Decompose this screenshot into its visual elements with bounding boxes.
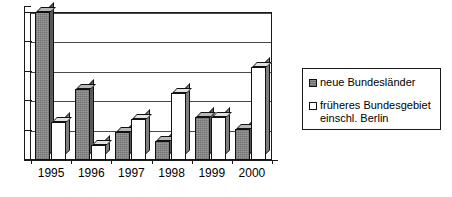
legend-label: neue Bundesländer <box>320 76 415 89</box>
legend-swatch-icon <box>309 79 317 87</box>
x-tick-mark <box>192 160 193 164</box>
y-tick-mark <box>25 100 32 101</box>
bar-2000-neue <box>235 129 250 160</box>
y-tick-mark <box>25 130 32 131</box>
x-axis <box>24 160 278 161</box>
x-tick-label-1995: 1995 <box>38 166 65 180</box>
gridline <box>31 13 271 14</box>
legend-label: früheres Bundesgebiet einschl. Berlin <box>320 99 431 124</box>
legend-swatch-icon <box>309 102 317 110</box>
x-tick-label-2000: 2000 <box>239 166 266 180</box>
x-tick-mark <box>272 160 273 164</box>
legend-item-neue-bundeslaender: neue Bundesländer <box>309 76 415 89</box>
legend-item-frueheres-bundesgebiet: früheres Bundesgebiet einschl. Berlin <box>309 99 431 124</box>
bar-1996-neue <box>75 89 90 160</box>
bar-1997-frueher <box>131 119 146 160</box>
bar-1995-neue <box>35 12 50 160</box>
bar-2000-frueher <box>251 67 266 160</box>
gridline <box>31 72 271 73</box>
x-tick-label-1996: 1996 <box>78 166 105 180</box>
x-tick-label-1999: 1999 <box>198 166 225 180</box>
gridline <box>31 42 271 43</box>
y-axis <box>24 12 31 161</box>
y-tick-mark <box>25 12 32 13</box>
gridline <box>31 101 271 102</box>
y-tick-mark <box>25 71 32 72</box>
legend: neue Bundesländer früheres Bundesgebiet … <box>302 68 441 130</box>
x-tick-mark <box>232 160 233 164</box>
bar-1999-neue <box>195 117 210 160</box>
bar-1998-frueher <box>171 93 186 160</box>
x-tick-mark <box>152 160 153 164</box>
x-tick-label-1998: 1998 <box>158 166 185 180</box>
bar-1995-frueher <box>51 122 66 160</box>
x-tick-mark <box>111 160 112 164</box>
bar-chart: 5 4 3 2 1 0 199519961997199819992000 <box>0 0 290 197</box>
x-tick-mark <box>31 160 32 164</box>
x-tick-label-1997: 1997 <box>118 166 145 180</box>
bar-1998-neue <box>155 141 170 160</box>
bar-1996-frueher <box>91 145 106 160</box>
bar-1999-frueher <box>211 117 226 160</box>
x-tick-mark <box>71 160 72 164</box>
bar-1997-neue <box>115 132 130 160</box>
y-tick-mark <box>25 41 32 42</box>
